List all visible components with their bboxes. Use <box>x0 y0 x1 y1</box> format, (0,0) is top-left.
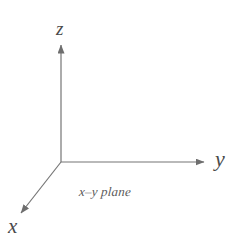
axes-drawing <box>0 0 236 239</box>
axis-label-z: z <box>56 19 64 38</box>
xy-plane-label: x–y plane <box>78 184 131 200</box>
axis-label-y: y <box>215 148 225 170</box>
axis-label-x: x <box>8 216 17 237</box>
x-axis-line <box>21 162 61 213</box>
coordinate-axes-figure: z y x x–y plane <box>0 0 236 239</box>
